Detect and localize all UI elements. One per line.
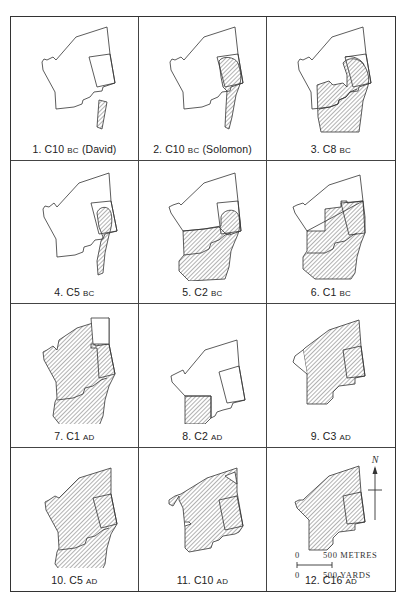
panel-1: 1. C10 BC (David) [11, 17, 139, 161]
city-map [267, 304, 395, 424]
city-map [267, 17, 395, 137]
map-panel-grid: 1. C10 BC (David) 2. C10 BC (Solomon) 3.… [10, 16, 396, 592]
panel-caption: 5. C2 BC [139, 286, 266, 298]
panel-caption: 6. C1 BC [267, 286, 395, 298]
panel-8: 8. C2 AD [139, 304, 267, 448]
panel-2: 2. C10 BC (Solomon) [139, 17, 267, 161]
panel-caption: 10. C5 AD [11, 574, 138, 586]
panel-caption: 8. C2 AD [139, 430, 266, 442]
city-map [139, 304, 267, 424]
scale-metres-zero: 0 [295, 550, 300, 560]
panel-12: N 0 500 METRES 0 500 YARDS 12. C16 AD [267, 448, 395, 592]
panel-9: 9. C3 AD [267, 304, 395, 448]
panel-3: 3. C8 BC [267, 17, 395, 161]
panel-5: 5. C2 BC [139, 161, 267, 305]
panel-6: 6. C1 BC [267, 161, 395, 305]
city-map [11, 161, 139, 281]
panel-caption: 12. C16 AD [267, 574, 395, 586]
city-map [11, 17, 139, 137]
scale-metres-label: 500 METRES [323, 550, 377, 560]
city-map [139, 17, 267, 137]
panel-caption: 2. C10 BC (Solomon) [139, 143, 266, 155]
panel-10: 10. C5 AD [11, 448, 139, 592]
north-arrow-icon: N [363, 454, 387, 524]
panel-7: 7. C1 AD [11, 304, 139, 448]
panel-caption: 1. C10 BC (David) [11, 143, 138, 155]
city-map [11, 304, 139, 424]
panel-caption: 9. C3 AD [267, 430, 395, 442]
panel-11: 11. C10 AD [139, 448, 267, 592]
panel-caption: 4. C5 BC [11, 286, 138, 298]
scale-bar-line [296, 561, 336, 569]
panel-4: 4. C5 BC [11, 161, 139, 305]
city-map [267, 161, 395, 281]
panel-caption: 7. C1 AD [11, 430, 138, 442]
svg-text:N: N [371, 454, 380, 465]
city-map [139, 448, 267, 568]
panel-caption: 3. C8 BC [267, 143, 395, 155]
city-map [139, 161, 267, 281]
panel-caption: 11. C10 AD [139, 574, 266, 586]
city-map [11, 448, 139, 568]
